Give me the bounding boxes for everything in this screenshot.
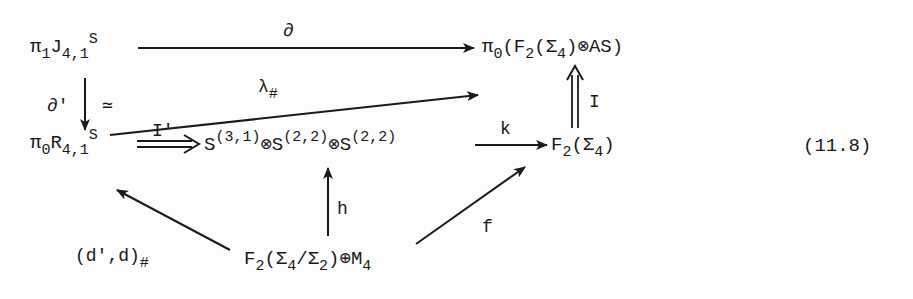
text: (Σ (571, 134, 594, 156)
text: F (244, 248, 255, 270)
subscript: 2 (319, 258, 328, 275)
text: F (551, 134, 562, 156)
label-k: k (500, 120, 511, 138)
subscript: 4 (594, 144, 603, 161)
subscript: 4 (287, 258, 296, 275)
subscript: # (140, 255, 149, 272)
arrow-I (567, 66, 583, 128)
text: (Σ (264, 248, 287, 270)
pi-symbol: π (482, 36, 493, 58)
label-lambda: λ# (258, 78, 278, 96)
arrow-dd (117, 190, 230, 250)
label-I: I (589, 93, 600, 111)
pi-symbol: π (30, 36, 41, 58)
label-h: h (337, 200, 348, 218)
arrow-f (416, 167, 525, 244)
subscript: 4 (362, 258, 371, 275)
commutative-diagram: π1J4,1S π0(F2(Σ4)⊗AS) π0R4,1S S(3,1)⊗S(2… (0, 0, 913, 299)
superscript: (2,2) (283, 129, 328, 146)
text: (d',d) (75, 246, 140, 266)
superscript: (2,2) (351, 129, 396, 146)
text: (Σ (534, 36, 557, 58)
subscript: 4,1 (62, 46, 89, 63)
text: ⊗S (260, 134, 283, 156)
superscript: S (89, 127, 98, 144)
subscript: 4,1 (62, 142, 89, 159)
label-partial-prime: ∂' (47, 97, 69, 115)
lambda-symbol: λ (258, 77, 269, 97)
subscript: 2 (525, 46, 534, 63)
text: )⊕M (328, 248, 362, 270)
label-I-prime: I' (152, 122, 174, 140)
label-f: f (482, 218, 493, 236)
text: ⊗S (328, 134, 351, 156)
text: /Σ (296, 248, 319, 270)
node-pi0-F2-AS: π0(F2(Σ4)⊗AS) (482, 38, 623, 57)
node-F2-S4: F2(Σ4) (551, 136, 615, 155)
superscript: S (89, 31, 98, 48)
text: ) (603, 134, 614, 156)
node-pi1-J41-S: π1J4,1S (30, 38, 98, 57)
subscript: 4 (557, 46, 566, 63)
text: S (204, 134, 215, 156)
label-isomorphism: ≃ (102, 97, 113, 115)
node-F2-quotient-plus-M4: F2(Σ4/Σ2)⊕M4 (244, 250, 371, 269)
pi-symbol: π (30, 132, 41, 154)
text: )⊗AS) (566, 36, 623, 58)
node-tensor-product: S(3,1)⊗S(2,2)⊗S(2,2) (204, 136, 396, 155)
text: (F (502, 36, 525, 58)
subscript: # (269, 86, 278, 103)
J-symbol: J (50, 36, 61, 58)
equation-number: (11.8) (803, 137, 871, 156)
node-pi0-R41-S: π0R4,1S (30, 134, 98, 153)
R-symbol: R (50, 132, 61, 154)
superscript: (3,1) (215, 129, 260, 146)
label-partial: ∂ (283, 22, 294, 40)
label-dd: (d',d)# (75, 247, 149, 265)
